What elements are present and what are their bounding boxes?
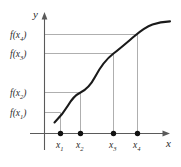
x-tick-label-x2: x2 bbox=[75, 140, 84, 152]
fx4-close: ) bbox=[22, 30, 26, 41]
y-tick-label-fx3: f(x3) bbox=[10, 49, 26, 61]
y-tick-label-fx1: f(x1) bbox=[10, 108, 26, 120]
marker-x1 bbox=[58, 131, 63, 136]
marker-x2 bbox=[78, 131, 83, 136]
x-tick-label-x3: x3 bbox=[108, 140, 117, 152]
x-tick-label-x1: x1 bbox=[55, 140, 63, 152]
y-axis-arrowhead bbox=[42, 12, 48, 20]
marker-x3 bbox=[111, 131, 116, 136]
function-curve bbox=[55, 21, 171, 122]
marker-x4 bbox=[135, 131, 140, 136]
axes bbox=[30, 16, 166, 150]
x-axis-arrowhead bbox=[163, 131, 171, 137]
x-axis-label: x bbox=[165, 137, 171, 149]
x2-sub: 2 bbox=[80, 145, 84, 152]
y-axis-label: y bbox=[32, 8, 38, 20]
vertical-guide-lines bbox=[61, 35, 138, 134]
fx3-close: ) bbox=[22, 49, 26, 60]
x3-sub: 3 bbox=[112, 145, 117, 152]
x4-sub: 4 bbox=[137, 145, 141, 152]
x-tick-label-x4: x4 bbox=[132, 140, 141, 152]
function-graph-figure: y x f(x4) f(x3) f(x2) f(x1) x1 x2 x3 x4 bbox=[0, 0, 181, 167]
y-tick-label-fx2: f(x2) bbox=[10, 88, 26, 100]
y-tick-label-fx4: f(x4) bbox=[10, 30, 26, 42]
x1-sub: 1 bbox=[60, 145, 63, 152]
fx1-close: ) bbox=[22, 108, 26, 119]
fx2-close: ) bbox=[22, 88, 26, 99]
